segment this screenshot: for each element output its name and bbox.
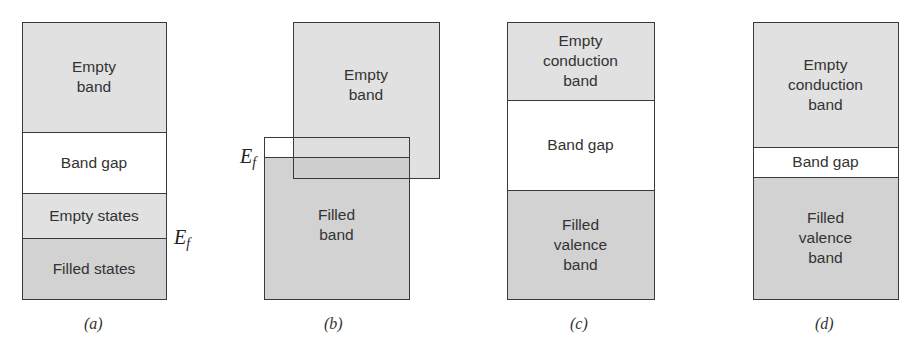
fermi-level-line bbox=[264, 157, 410, 158]
panel-caption: (b) bbox=[324, 315, 343, 333]
panel-outline bbox=[753, 22, 899, 300]
panel-outline bbox=[507, 22, 655, 300]
panel-outline bbox=[22, 22, 167, 300]
panel-caption: (d) bbox=[815, 315, 834, 333]
panel-caption: (a) bbox=[84, 315, 103, 333]
filled-band-outline bbox=[264, 137, 410, 300]
fermi-level-label: Ef bbox=[240, 145, 256, 171]
panel-caption: (c) bbox=[570, 315, 588, 333]
fermi-level-label: Ef bbox=[174, 226, 190, 252]
